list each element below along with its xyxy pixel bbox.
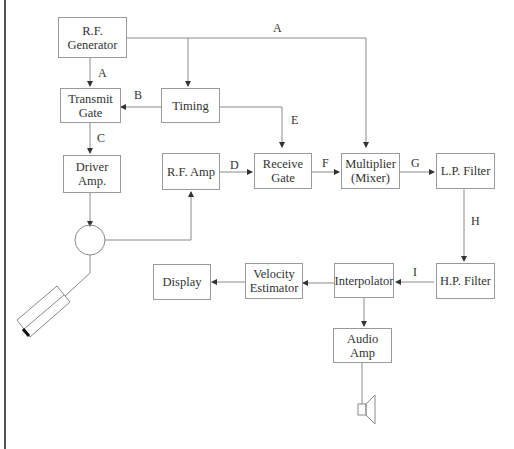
- interpolator-block: Interpolator: [334, 263, 394, 298]
- transducer-icon: [75, 225, 105, 255]
- signal-label-i: I: [413, 265, 417, 280]
- receive-gate-block: Receive Gate: [254, 153, 312, 189]
- signal-label-g: G: [411, 156, 420, 171]
- probe-icon: [17, 286, 70, 337]
- signal-label-h: H: [471, 214, 480, 229]
- signal-label-a-left: A: [98, 66, 107, 81]
- speaker-icon: [358, 395, 375, 424]
- signal-label-d: D: [230, 158, 239, 173]
- signal-label-e: E: [291, 113, 298, 128]
- audio-amp-block: Audio Amp: [333, 328, 392, 363]
- velocity-estimator-block: Velocity Estimator: [245, 263, 303, 299]
- signal-label-c: C: [97, 131, 105, 146]
- lp-filter-block: L.P. Filter: [436, 153, 495, 189]
- rf-generator-block: R.F. Generator: [58, 17, 127, 58]
- signal-label-a-top: A: [273, 21, 282, 36]
- driver-amp-block: Driver Amp.: [63, 155, 121, 193]
- display-block: Display: [153, 264, 211, 300]
- multiplier-block: Multiplier (Mixer): [341, 153, 400, 189]
- signal-label-b: B: [134, 88, 142, 103]
- signal-label-f: F: [322, 156, 329, 171]
- timing-block: Timing: [161, 88, 220, 123]
- hp-filter-block: H.P. Filter: [436, 263, 495, 299]
- transmit-gate-block: Transmit Gate: [60, 88, 121, 123]
- doppler-block-diagram: R.F. Generator Transmit Gate Timing Driv…: [0, 0, 514, 449]
- rf-amp-block: R.F. Amp: [162, 153, 220, 190]
